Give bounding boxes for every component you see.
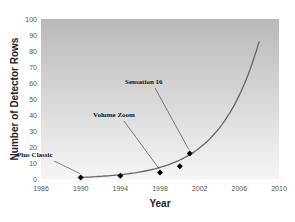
y-tick-label: 20 [29,144,37,151]
chart: 0102030405060708090100 19861990199419982… [0,0,295,222]
y-tick-label: 10 [29,160,37,167]
y-tick-label: 40 [29,112,37,119]
y-tick-label: 100 [25,16,37,23]
y-tick-label: 0 [33,176,37,183]
y-tick-label: 60 [29,80,37,87]
x-tick-label: 1986 [33,185,49,192]
y-tick-label: 80 [29,48,37,55]
y-tick-label: 90 [29,32,37,39]
x-tick-label: 2010 [271,185,287,192]
x-tick-label: 1998 [152,185,168,192]
annotation-label: Sensation 16 [125,78,163,86]
x-tick-label: 1994 [113,185,129,192]
y-axis-label: Number of Detector Rows [9,37,20,160]
annotation-label: Volume Zoom [93,111,135,119]
y-tick-label: 30 [29,128,37,135]
x-tick-label: 2006 [232,185,248,192]
y-tick-label: 70 [29,64,37,71]
y-tick-label: 50 [29,96,37,103]
x-tick-label: 2002 [192,185,208,192]
annotation-label: Plus Classic [17,151,53,159]
x-axis-ticks: 1986199019941998200220062010 [33,185,287,192]
x-axis-label: Year [149,198,170,209]
x-tick-label: 1990 [73,185,89,192]
plot-area [41,19,279,179]
